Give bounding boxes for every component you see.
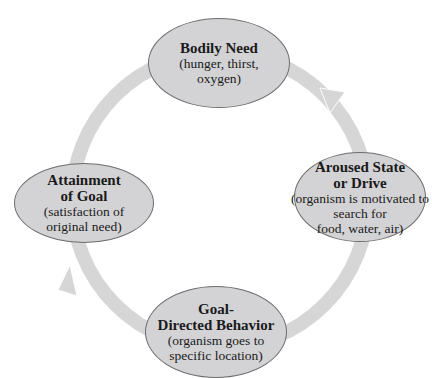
node-desc: (satisfaction of: [44, 204, 125, 219]
node-desc: original need): [46, 219, 121, 234]
node-title: Goal-: [198, 301, 234, 317]
node-title: Aroused State: [315, 159, 405, 175]
node-aroused-state: Aroused State or Drive (organism is moti…: [294, 152, 426, 242]
node-goal-directed: Goal- Directed Behavior (organism goes t…: [145, 286, 287, 378]
node-title: Bodily Need: [180, 40, 258, 56]
node-bodily-need: Bodily Need (hunger, thirst, oxygen): [148, 18, 290, 108]
node-desc: specific location): [169, 348, 262, 363]
node-desc: (organism is motivated to: [291, 191, 429, 206]
node-desc: (hunger, thirst,: [179, 56, 258, 71]
arrowhead-left-icon: [58, 265, 77, 296]
node-title: Directed Behavior: [158, 317, 275, 333]
node-title: Attainment: [47, 172, 120, 188]
node-title: of Goal: [60, 188, 107, 204]
node-title: or Drive: [333, 175, 386, 191]
node-desc: (organism goes to: [168, 333, 265, 348]
node-desc: oxygen): [197, 71, 241, 86]
node-desc: search for: [333, 206, 387, 221]
node-desc: food, water, air): [317, 221, 403, 236]
node-attainment: Attainment of Goal (satisfaction of orig…: [14, 163, 154, 243]
